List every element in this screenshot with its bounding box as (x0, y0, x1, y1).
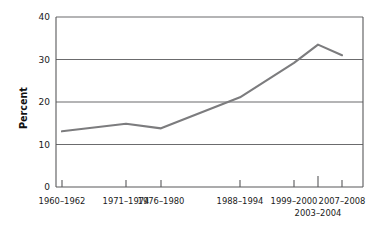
x-label-1976-1980: 1976–1980 (138, 196, 185, 206)
x-tick-labels-row-2: 2003–2004 (295, 208, 342, 218)
chart-plot-area: 40 30 20 10 0 Percent 1960–1962 1971–197… (0, 0, 388, 240)
x-label-2007-2008: 2007–2008 (319, 196, 366, 206)
x-label-1988-1994: 1988–1994 (217, 196, 264, 206)
line-chart: 40 30 20 10 0 Percent 1960–1962 1971–197… (0, 0, 388, 240)
x-tick-labels-row-1: 1960–1962 1971–1974 1976–1980 1988–1994 … (39, 196, 366, 206)
y-tick-label-10: 10 (39, 140, 51, 150)
data-series-percent (62, 45, 342, 132)
y-tick-labels: 40 30 20 10 0 (39, 12, 51, 192)
y-tick-label-0: 0 (44, 182, 50, 192)
gridlines (56, 17, 363, 145)
x-label-1960-1962: 1960–1962 (39, 196, 86, 206)
x-label-1999-2000: 1999–2000 (271, 196, 318, 206)
x-tick-marks (62, 176, 342, 187)
x-label-2003-2004: 2003–2004 (295, 208, 342, 218)
y-tick-label-20: 20 (39, 97, 51, 107)
y-axis-title: Percent (18, 87, 29, 129)
y-tick-label-40: 40 (39, 12, 51, 22)
y-tick-label-30: 30 (39, 55, 51, 65)
